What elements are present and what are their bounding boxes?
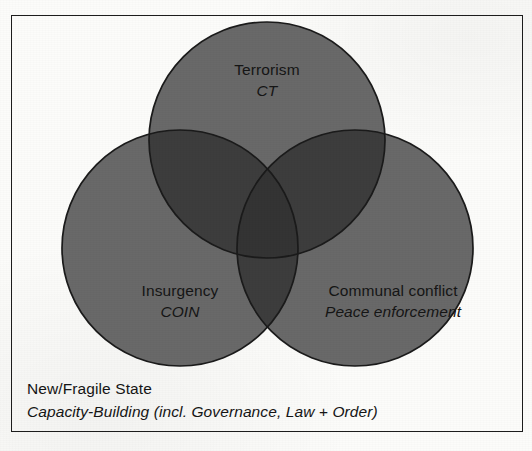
venn-label-communal-conflict-title: Communal conflict [288, 281, 498, 300]
caption-line-new-fragile-state: New/Fragile State [27, 379, 497, 399]
venn-label-insurgency-sub: COIN [80, 302, 280, 321]
venn-label-terrorism-title: Terrorism [167, 60, 367, 79]
figure-caption: New/Fragile State Capacity-Building (inc… [27, 379, 497, 422]
venn-label-communal-conflict-sub: Peace enforcement [288, 302, 498, 321]
figure-canvas: Terrorism CT Insurgency COIN Communal co… [0, 0, 532, 451]
venn-label-insurgency: Insurgency COIN [80, 281, 280, 322]
venn-label-terrorism: Terrorism CT [167, 60, 367, 101]
caption-line-capacity-building: Capacity-Building (incl. Governance, Law… [27, 402, 497, 422]
venn-label-communal-conflict: Communal conflict Peace enforcement [288, 281, 498, 322]
venn-label-terrorism-sub: CT [167, 81, 367, 100]
venn-label-insurgency-title: Insurgency [80, 281, 280, 300]
